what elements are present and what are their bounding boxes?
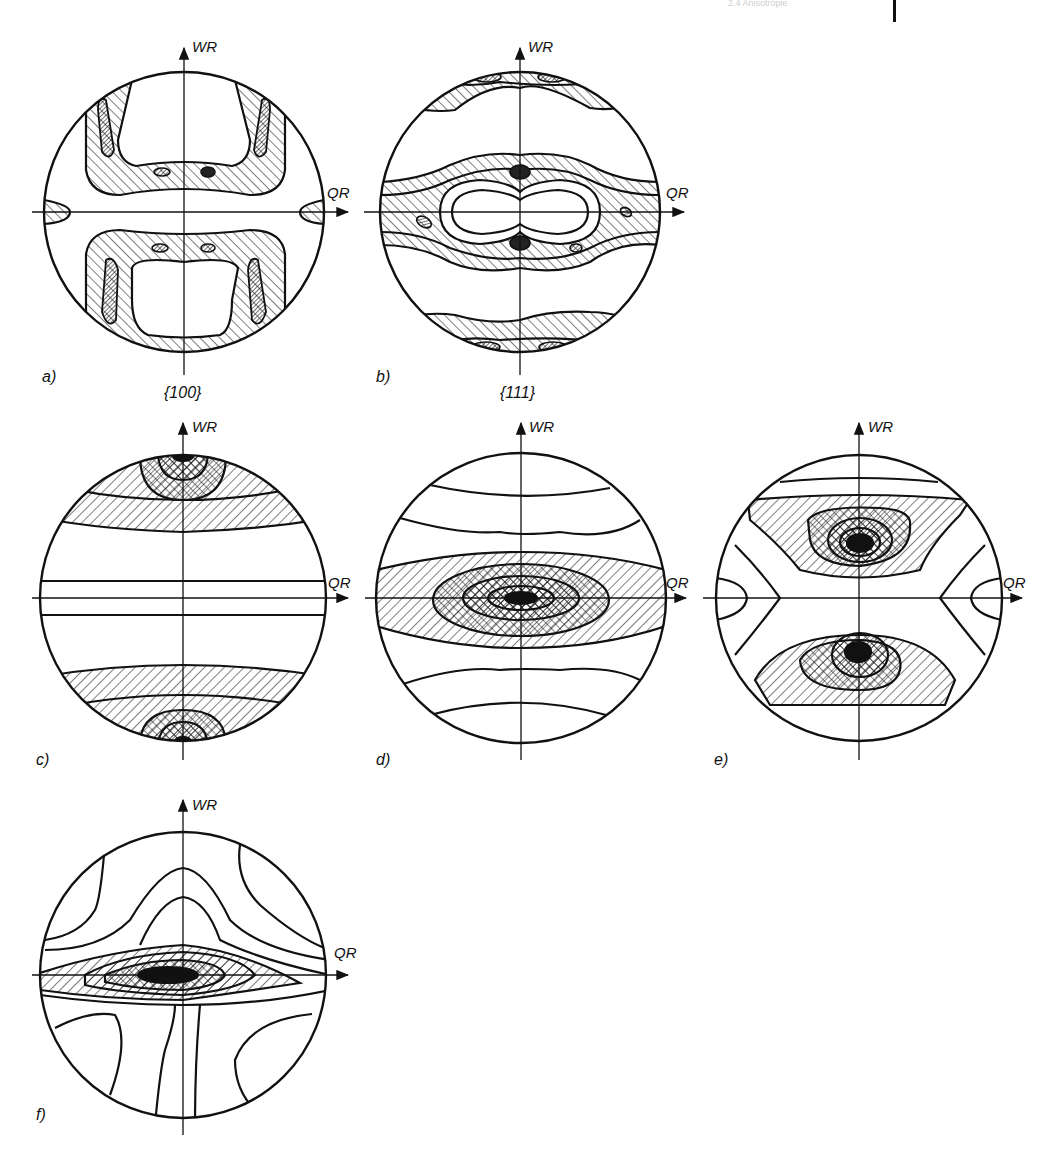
wr-label: WR bbox=[192, 418, 217, 435]
panel-d: WR QR d) bbox=[365, 418, 689, 768]
qr-label: QR bbox=[328, 574, 351, 591]
panel-c: WR QR c) bbox=[32, 418, 351, 768]
panel-a: WR QR a) {100} bbox=[32, 38, 350, 401]
wr-label: WR bbox=[192, 796, 217, 813]
panel-label: f) bbox=[36, 1106, 46, 1123]
qr-label: QR bbox=[334, 944, 357, 961]
qr-label: QR bbox=[666, 184, 689, 201]
wr-label: WR bbox=[528, 38, 553, 55]
qr-label: QR bbox=[1003, 574, 1026, 591]
wr-label: WR bbox=[192, 38, 217, 55]
qr-label: QR bbox=[327, 184, 350, 201]
panel-label: e) bbox=[714, 751, 728, 768]
panel-label: a) bbox=[42, 368, 56, 385]
panel-label: c) bbox=[36, 751, 49, 768]
panel-b: WR QR b) {111} bbox=[364, 38, 689, 401]
panel-label: b) bbox=[376, 368, 390, 385]
panel-f: WR QR f) bbox=[32, 796, 357, 1135]
wr-label: WR bbox=[529, 418, 554, 435]
pole-figures: WR QR a) {100} bbox=[0, 0, 1055, 1154]
panel-label: d) bbox=[376, 751, 390, 768]
panel-caption: {111} bbox=[500, 384, 536, 401]
wr-label: WR bbox=[868, 418, 893, 435]
panel-caption: {100} bbox=[164, 384, 202, 401]
qr-label: QR bbox=[666, 574, 689, 591]
panel-e: WR QR e) bbox=[703, 418, 1026, 768]
